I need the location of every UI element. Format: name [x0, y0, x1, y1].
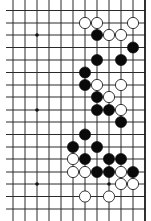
black-stone [91, 54, 102, 65]
star-point-icon [35, 108, 39, 112]
black-stone [91, 104, 102, 115]
black-stone [115, 116, 126, 127]
black-stone [67, 141, 78, 152]
white-stone [115, 166, 126, 177]
white-stone [79, 17, 90, 28]
white-stone [127, 17, 138, 28]
black-stone [115, 54, 126, 65]
go-board[interactable] [0, 0, 151, 221]
white-stone [127, 178, 138, 189]
black-stone [79, 79, 90, 90]
black-stone [127, 42, 138, 53]
black-stone [115, 153, 126, 164]
black-stone [79, 67, 90, 78]
white-stone [103, 91, 114, 102]
white-stone [91, 79, 102, 90]
go-board-canvas[interactable] [0, 0, 151, 221]
black-stone [103, 153, 114, 164]
white-stone [115, 79, 126, 90]
black-stone [103, 104, 114, 115]
black-stone [91, 91, 102, 102]
star-point-icon [107, 182, 111, 186]
star-point-icon [35, 182, 39, 186]
white-stone [103, 191, 114, 202]
white-stone [79, 191, 90, 202]
white-stone [67, 166, 78, 177]
black-stone [91, 166, 102, 177]
black-stone [79, 153, 90, 164]
white-stone [115, 29, 126, 40]
white-stone [79, 166, 90, 177]
white-stone [115, 178, 126, 189]
black-stone [91, 141, 102, 152]
black-stone [103, 166, 114, 177]
white-stone [115, 104, 126, 115]
black-stone [127, 166, 138, 177]
white-stone [91, 17, 102, 28]
black-stone [91, 29, 102, 40]
white-stone [67, 153, 78, 164]
white-stone [103, 29, 114, 40]
star-point-icon [35, 33, 39, 37]
black-stone [79, 129, 90, 140]
